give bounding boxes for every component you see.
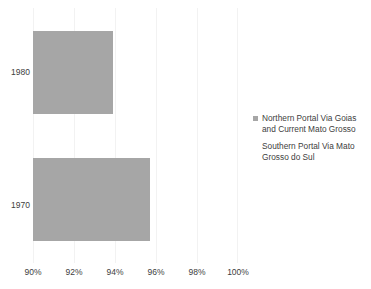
legend-swatch-icon [253,144,258,149]
bar-row-1980 [33,31,238,114]
chart-legend: Northern Portal Via Goias and Current Ma… [253,113,369,169]
x-axis-tick-90: 90% [24,266,41,278]
legend-item-southern-portal[interactable]: Southern Portal Via Mato Grosso do Sul [253,141,369,162]
legend-label-line1: Southern Portal Via Mato [262,141,369,152]
y-axis-tick-1980: 1980 [0,67,30,77]
y-axis-tick-1970: 1970 [0,200,30,210]
x-axis-tick-92: 92% [65,266,82,278]
bar-row-1970 [33,158,238,241]
bar-1970-northern-portal[interactable] [33,158,150,241]
x-axis-tick-94: 94% [106,266,123,278]
plot-area [33,8,238,263]
bar-chart: 1980 1970 90% 92% 94% 96% 98% 100% North… [0,0,371,289]
legend-label-line2: Grosso do Sul [262,152,369,163]
x-axis-tick-100: 100% [227,266,249,278]
x-axis-tick-98: 98% [188,266,205,278]
x-axis-tick-96: 96% [147,266,164,278]
bar-1980-northern-portal[interactable] [33,31,113,114]
legend-label-line1: Northern Portal Via Goias [262,113,369,124]
x-axis: 90% 92% 94% 96% 98% 100% [0,266,371,280]
legend-item-northern-portal[interactable]: Northern Portal Via Goias and Current Ma… [253,113,369,134]
legend-label-line2: and Current Mato Grosso [262,124,369,135]
legend-swatch-icon [253,116,258,121]
